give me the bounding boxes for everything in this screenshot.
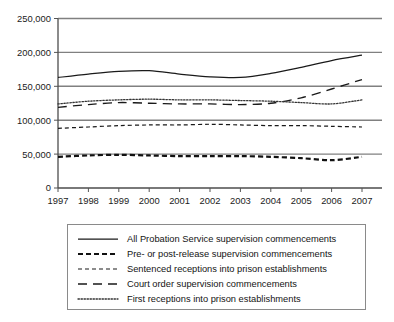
y-tick-label: 150,000	[17, 81, 51, 92]
x-tick-label: 2003	[230, 195, 251, 206]
legend-line-swatch	[76, 249, 120, 259]
legend-list: All Probation Service supervision commen…	[68, 225, 365, 306]
y-tick-label: 250,000	[17, 13, 51, 24]
legend-item[interactable]: Pre- or post-release supervision commenc…	[68, 246, 365, 261]
y-tick-label: 50,000	[22, 149, 51, 160]
legend-line-swatch	[76, 279, 120, 289]
chart-svg: 050,000100,000150,000200,000250,000 1997…	[0, 0, 394, 215]
x-axis-tick-labels: 1997199819992000200120022003200420052006…	[48, 195, 373, 206]
x-tick-label: 1999	[108, 195, 129, 206]
legend-item-label: First receptions into prison establishme…	[127, 294, 301, 304]
x-tick-label: 2004	[260, 195, 281, 206]
y-tick-label: 200,000	[17, 47, 51, 58]
legend-item[interactable]: Sentenced receptions into prison establi…	[68, 261, 365, 276]
x-tick-label: 1997	[48, 195, 69, 206]
legend-item[interactable]: Court order supervision commencements	[68, 276, 365, 291]
series-line-1	[58, 155, 362, 160]
legend-item[interactable]: First receptions into prison establishme…	[68, 291, 365, 306]
series-line-0	[58, 55, 362, 78]
legend-item[interactable]: All Probation Service supervision commen…	[68, 231, 365, 246]
x-tick-label: 2001	[169, 195, 190, 206]
legend-item-label: All Probation Service supervision commen…	[127, 234, 336, 244]
legend-item-label: Pre- or post-release supervision commenc…	[127, 249, 332, 259]
series-line-2	[58, 124, 362, 128]
x-tick-label: 2006	[321, 195, 342, 206]
legend-item-label: Sentenced receptions into prison establi…	[127, 264, 327, 274]
legend-line-swatch	[76, 294, 120, 304]
y-axis-tick-labels: 050,000100,000150,000200,000250,000	[17, 13, 51, 194]
x-tick-label: 2005	[291, 195, 312, 206]
x-tick-label: 2007	[352, 195, 373, 206]
legend-item-label: Court order supervision commencements	[127, 279, 297, 289]
x-tick-label: 1998	[78, 195, 99, 206]
x-tick-label: 2000	[139, 195, 160, 206]
data-series-group	[58, 55, 362, 160]
y-tick-label: 0	[46, 182, 51, 193]
line-chart-figure: 050,000100,000150,000200,000250,000 1997…	[0, 0, 394, 322]
plot-area-wrapper: 050,000100,000150,000200,000250,000 1997…	[0, 0, 394, 215]
legend-line-swatch	[76, 234, 120, 244]
axis-lines	[58, 19, 382, 193]
chart-legend: All Probation Service supervision commen…	[67, 224, 366, 310]
x-tick-label: 2002	[200, 195, 221, 206]
legend-line-swatch	[76, 264, 120, 274]
y-tick-label: 100,000	[17, 115, 51, 126]
